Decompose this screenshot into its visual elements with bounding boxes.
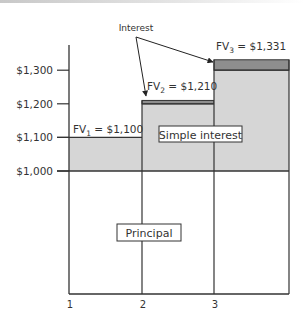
simple-interest-bar-period-1	[69, 137, 142, 171]
x-tick-label-2: 2	[140, 299, 146, 310]
principal-label-box: Principal	[117, 224, 181, 241]
compound-interest-bar-period-3	[214, 60, 289, 70]
simple-interest-bar-period-3	[214, 70, 289, 171]
fv-label-period-3: FV3 = $1,331	[216, 40, 286, 55]
fv-label-period-2: FV2 = $1,210	[147, 80, 217, 95]
y-tick-label-1200: $1,200	[16, 98, 53, 110]
simple-interest-label-box: Simple interest	[159, 126, 243, 142]
x-tick-label-3: 3	[212, 299, 218, 310]
y-tick-label-1300: $1,300	[16, 64, 53, 76]
principal-label: Principal	[126, 227, 173, 240]
interest-arrow-to-period-3	[136, 37, 213, 62]
fv-label-period-1: FV1 = $1,100	[73, 123, 143, 138]
y-tick-label-1000: $1,000	[16, 165, 53, 177]
fv-label-prefix: FV	[147, 80, 161, 92]
compound-interest-diagram: $1,000$1,100$1,200$1,300123FV1 = $1,100F…	[0, 0, 304, 324]
x-tick-label-1: 1	[67, 299, 73, 310]
fv-label-prefix: FV	[216, 40, 230, 52]
interest-annotation-label: Interest	[119, 23, 154, 33]
fv-label-value: = $1,210	[165, 80, 217, 92]
fv-label-value: = $1,100	[91, 123, 143, 135]
fv-label-value: = $1,331	[234, 40, 286, 52]
interest-arrow-to-period-2	[136, 37, 146, 96]
simple-interest-label: Simple interest	[159, 129, 243, 142]
fv-label-prefix: FV	[73, 123, 87, 135]
y-tick-label-1100: $1,100	[16, 131, 53, 143]
